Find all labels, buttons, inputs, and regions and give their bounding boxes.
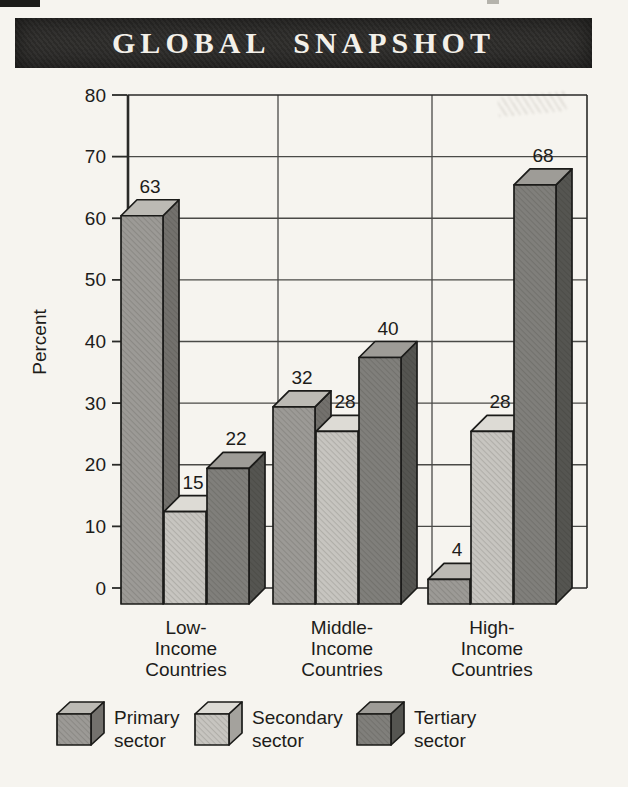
scan-artifact <box>0 0 40 7</box>
category-label: Middle-IncomeCountries <box>301 617 382 680</box>
scan-artifact <box>487 0 499 4</box>
y-tick-label: 10 <box>85 516 106 537</box>
y-axis-label: Percent <box>29 309 50 375</box>
category-label: High-IncomeCountries <box>451 617 532 680</box>
bar-front-texture <box>428 579 470 604</box>
bar-value-label: 22 <box>225 428 246 449</box>
legend-label-line: sector <box>252 729 343 752</box>
legend-label-tertiary: Tertiary sector <box>414 697 476 752</box>
bar-front-texture <box>359 358 401 605</box>
bar-chart: 01020304050607080Percent6315223228404286… <box>0 0 628 692</box>
legend-label-line: sector <box>114 729 179 752</box>
y-tick-label: 80 <box>85 85 106 106</box>
cube-front-texture <box>195 714 229 745</box>
bar-side-texture <box>249 452 265 604</box>
bar-low-income-tertiary: 22 <box>207 428 265 604</box>
category-label: Low-IncomeCountries <box>145 617 226 680</box>
legend-label-secondary: Secondary sector <box>252 697 343 752</box>
bar-value-label: 28 <box>334 391 355 412</box>
bar-value-label: 4 <box>452 539 463 560</box>
legend-swatch-tertiary-cube <box>354 697 408 751</box>
legend-swatch-secondary-cube <box>192 697 246 751</box>
page: GLOBAL SNAPSHOT 01020304050607080Percent… <box>0 0 628 787</box>
bar-front-texture <box>273 407 315 604</box>
y-tick-label: 60 <box>85 208 106 229</box>
legend-label-primary: Primary sector <box>114 697 179 752</box>
legend-item-tertiary: Tertiary sector <box>354 697 476 752</box>
y-tick-label: 70 <box>85 146 106 167</box>
bar-middle-income-tertiary: 40 <box>359 318 417 605</box>
bar-value-label: 28 <box>489 391 510 412</box>
legend-label-line: Primary <box>114 706 179 729</box>
bar-front-texture <box>471 431 513 604</box>
bar-high-income-tertiary: 68 <box>514 145 572 604</box>
bar-front-texture <box>514 185 556 604</box>
bar-front-texture <box>121 216 163 604</box>
cube-front-texture <box>357 714 391 745</box>
cube-front-texture <box>57 714 91 745</box>
bar-front-texture <box>164 512 206 604</box>
y-tick-label: 0 <box>95 578 106 599</box>
y-tick-label: 20 <box>85 454 106 475</box>
legend-label-line: Secondary <box>252 706 343 729</box>
y-tick-label: 50 <box>85 269 106 290</box>
y-tick-label: 30 <box>85 393 106 414</box>
bar-front-texture <box>207 468 249 604</box>
bar-side-texture <box>401 342 417 605</box>
legend-item-secondary: Secondary sector <box>192 697 343 752</box>
bar-value-label: 32 <box>291 367 312 388</box>
page-title: GLOBAL SNAPSHOT <box>112 26 495 60</box>
legend-label-line: Tertiary <box>414 706 476 729</box>
title-banner: GLOBAL SNAPSHOT <box>15 18 592 68</box>
legend-swatch-primary-cube <box>54 697 108 751</box>
bar-value-label: 40 <box>377 318 398 339</box>
bar-value-label: 63 <box>139 176 160 197</box>
legend-label-line: sector <box>414 729 476 752</box>
bar-value-label: 15 <box>182 472 203 493</box>
y-tick-label: 40 <box>85 331 106 352</box>
bar-front-texture <box>316 431 358 604</box>
legend-item-primary: Primary sector <box>54 697 179 752</box>
bar-side-texture <box>556 169 572 604</box>
bar-value-label: 68 <box>532 145 553 166</box>
